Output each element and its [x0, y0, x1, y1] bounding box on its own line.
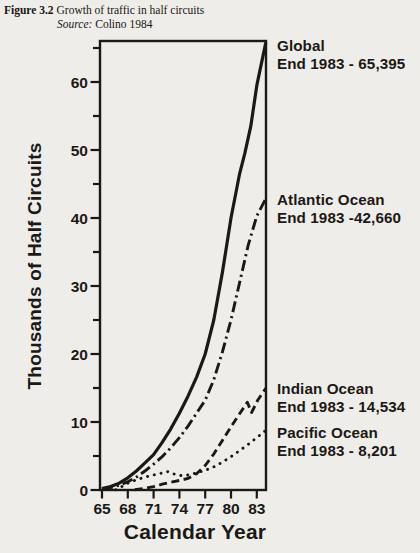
y-tick-label: 30 — [71, 278, 88, 295]
x-tick-label: 83 — [248, 500, 266, 517]
series-name: Indian Ocean — [277, 380, 419, 398]
line-chart: 656871747780830102030405060 — [0, 0, 420, 553]
x-tick-label: 71 — [145, 500, 163, 517]
series-line-pacific — [116, 430, 266, 490]
x-tick-label: 68 — [119, 500, 137, 517]
x-tick-label: 77 — [197, 500, 214, 517]
series-end-value: End 1983 -42,660 — [277, 209, 419, 227]
y-tick-label: 60 — [71, 74, 88, 91]
series-line-atlantic — [102, 198, 266, 489]
y-tick-label: 0 — [79, 482, 88, 499]
x-tick-label: 80 — [222, 500, 239, 517]
x-tick-label: 74 — [171, 500, 189, 517]
y-tick-label: 20 — [71, 346, 88, 363]
series-end-value: End 1983 - 65,395 — [277, 55, 419, 73]
series-line-global — [102, 43, 266, 489]
series-end-value: End 1983 - 8,201 — [277, 442, 419, 460]
y-axis-title: Thousands of Half Circuits — [24, 106, 50, 426]
y-tick-label: 40 — [71, 210, 88, 227]
series-annotation-indian: Indian Ocean End 1983 - 14,534 — [277, 380, 419, 416]
series-end-value: End 1983 - 14,534 — [277, 398, 419, 416]
y-tick-label: 10 — [71, 414, 88, 431]
x-axis-title: Calendar Year — [95, 520, 295, 544]
plot-frame — [100, 41, 266, 490]
figure-page: Figure 3.2 Growth of traffic in half cir… — [0, 0, 420, 553]
series-name: Pacific Ocean — [277, 424, 419, 442]
series-annotation-pacific: Pacific Ocean End 1983 - 8,201 — [277, 424, 419, 460]
series-name: Atlantic Ocean — [277, 191, 419, 209]
y-tick-label: 50 — [71, 142, 88, 159]
series-annotation-atlantic: Atlantic Ocean End 1983 -42,660 — [277, 191, 419, 227]
series-name: Global — [277, 37, 419, 55]
x-tick-label: 65 — [93, 500, 111, 517]
series-annotation-global: Global End 1983 - 65,395 — [277, 37, 419, 73]
